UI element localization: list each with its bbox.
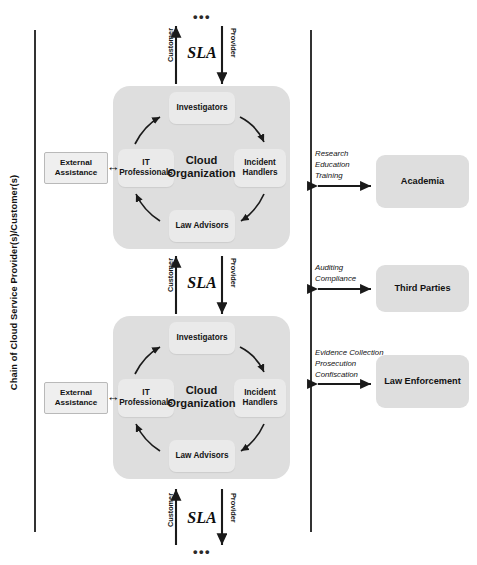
relation-line-third-1: Auditing [315, 262, 356, 273]
relation-line-academia-3: Training [315, 170, 350, 181]
sla-label-bottom: SLA [165, 487, 239, 549]
cloud-organization-label-2: Cloud Organization [157, 384, 247, 411]
cloud-organization-2: Investigators Incident Handlers Law Advi… [113, 316, 290, 479]
relation-line-law-2: Prosecution [315, 358, 383, 369]
relation-caption-academia: Research Education Training [315, 148, 350, 181]
sla-connector-top: Customer SLA Provider [165, 22, 239, 84]
sla-connector-bottom: Customer SLA Provider [165, 487, 239, 549]
relation-line-academia-2: Education [315, 159, 350, 170]
external-assistance-arrow-icon-1: ↔ [106, 160, 120, 174]
entity-academia[interactable]: Academia [376, 155, 469, 208]
external-assistance-1[interactable]: External Assistance [44, 152, 108, 184]
relation-caption-law-enforcement: Evidence Collection Prosecution Confisca… [315, 347, 383, 380]
role-law-advisors-1[interactable]: Law Advisors [169, 210, 235, 242]
sla-provider-label-bottom: Provider [230, 493, 237, 523]
relation-line-academia-1: Research [315, 148, 350, 159]
relation-line-law-1: Evidence Collection [315, 347, 383, 358]
role-law-advisors-2[interactable]: Law Advisors [169, 440, 235, 472]
cloud-organization-1: Investigators Incident Handlers Law Advi… [113, 86, 290, 249]
chain-boundary-line-left [34, 30, 36, 532]
entity-third-parties[interactable]: Third Parties [376, 265, 469, 312]
chain-boundary-line-right [310, 30, 312, 532]
sla-label-middle: SLA [165, 252, 239, 314]
external-assistance-arrow-icon-2: ↔ [106, 390, 120, 404]
role-investigators-2[interactable]: Investigators [169, 322, 235, 354]
entity-law-enforcement[interactable]: Law Enforcement [376, 355, 469, 408]
relation-line-law-3: Confiscation [315, 369, 383, 380]
role-investigators-1[interactable]: Investigators [169, 92, 235, 124]
cloud-organization-label-1: Cloud Organization [157, 154, 247, 181]
sla-provider-label-top: Provider [230, 28, 237, 58]
chain-axis-label: Chain of Cloud Service Provider(s)/Custo… [0, 0, 28, 565]
diagram-canvas: Chain of Cloud Service Provider(s)/Custo… [0, 0, 477, 565]
sla-provider-label-middle: Provider [230, 258, 237, 288]
relation-caption-third-parties: Auditing Compliance [315, 262, 356, 284]
ellipsis-bottom: ••• [165, 545, 239, 558]
sla-label-top: SLA [165, 22, 239, 84]
relation-line-third-2: Compliance [315, 273, 356, 284]
external-assistance-2[interactable]: External Assistance [44, 382, 108, 414]
sla-connector-middle: Customer SLA Provider [165, 252, 239, 314]
